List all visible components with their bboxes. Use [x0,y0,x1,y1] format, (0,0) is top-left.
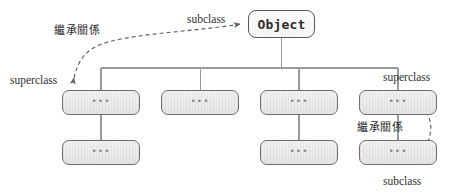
class-node-level2-2[interactable]: ••• [161,90,239,115]
class-node-level3-1[interactable]: ••• [62,140,140,165]
class-node-object[interactable]: Object [248,10,315,38]
class-node-level3-1-label: ••• [92,147,111,156]
label-inheritance-left: 繼承關係 [54,25,100,36]
class-node-level2-4[interactable]: ••• [359,90,437,115]
label-subclass-top: subclass [187,14,225,26]
label-inheritance-right: 繼承關係 [357,122,403,133]
class-node-level2-2-label: ••• [191,97,210,106]
class-node-level3-3[interactable]: ••• [359,140,437,165]
label-superclass-right: superclass [383,72,430,84]
diagram-canvas: Object ••• ••• ••• ••• ••• ••• ••• subcl… [0,0,463,196]
label-superclass-left: superclass [10,75,57,87]
class-node-level2-4-label: ••• [389,97,408,106]
class-node-level2-3-label: ••• [290,97,309,106]
class-node-level2-1-label: ••• [92,97,111,106]
class-node-level2-1[interactable]: ••• [62,90,140,115]
class-node-level2-3[interactable]: ••• [260,90,338,115]
class-node-level3-3-label: ••• [389,147,408,156]
class-node-level3-2[interactable]: ••• [260,140,338,165]
class-node-object-label: Object [257,17,305,32]
class-node-level3-2-label: ••• [290,147,309,156]
label-subclass-bottom: subclass [383,176,421,188]
